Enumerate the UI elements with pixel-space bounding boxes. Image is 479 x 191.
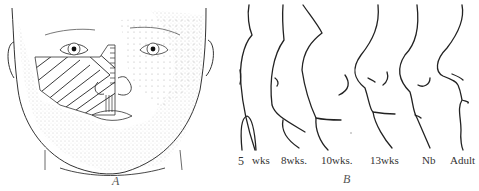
stage-label-wks: wks	[252, 154, 270, 166]
stage-label-nb: Nb	[422, 154, 435, 166]
panel-b-label: B	[343, 172, 350, 187]
stage-label-8wks: 8wks.	[281, 154, 307, 166]
stage-label-13wks: 13wks	[370, 154, 399, 166]
panel-a-label: A	[112, 174, 119, 189]
panel-b-profile-series: 5 wks 8wks. 10wks. 13wks Nb Adult B	[225, 0, 479, 191]
panel-a-face-frontal: A	[0, 0, 240, 191]
face-illustration	[0, 0, 240, 191]
stage-label-5: 5	[238, 154, 244, 169]
stage-label-adult: Adult	[450, 154, 475, 166]
stage-label-10wks: 10wks.	[321, 154, 352, 166]
